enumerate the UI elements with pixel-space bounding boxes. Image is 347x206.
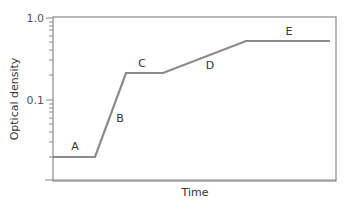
phase-label-a: A bbox=[71, 140, 79, 153]
y-tick-label-1: 1.0 bbox=[27, 12, 45, 25]
x-axis-title: Time bbox=[181, 186, 209, 199]
growth-curve-line bbox=[53, 41, 330, 157]
phase-label-e: E bbox=[286, 25, 293, 38]
phase-label-c: C bbox=[138, 57, 146, 70]
y-axis-title: Optical density bbox=[8, 57, 21, 140]
y-tick-label-0-1: 0.1 bbox=[27, 94, 45, 107]
phase-label-d: D bbox=[206, 59, 214, 72]
y-axis-ticks bbox=[46, 18, 53, 157]
phase-label-b: B bbox=[116, 112, 124, 125]
growth-curve-chart: 1.0 0.1 Optical density Time A B C D E bbox=[0, 0, 347, 206]
